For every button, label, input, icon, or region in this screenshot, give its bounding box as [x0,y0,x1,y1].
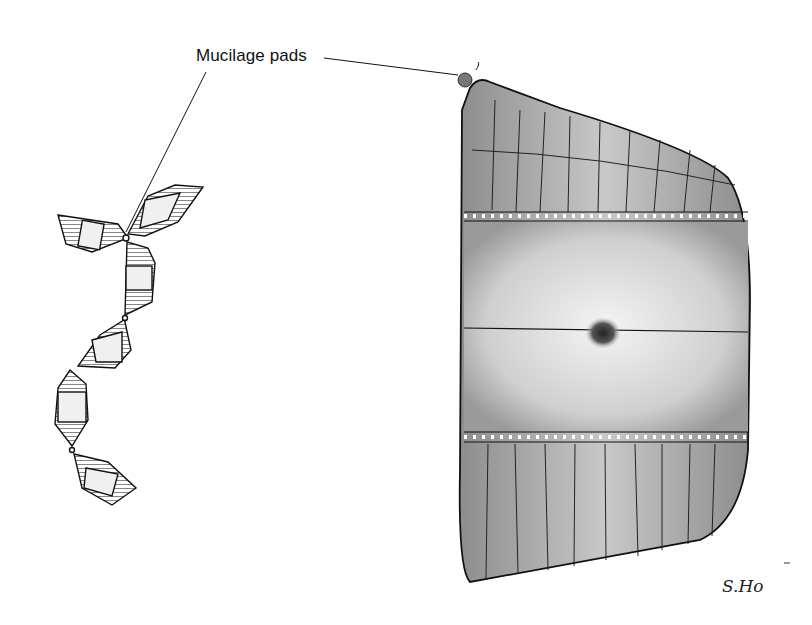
single-cell-frustule [458,62,750,582]
diatom-illustration: Mucilage pads S.Ho [0,0,812,625]
mucilage-pads-label: Mucilage pads [196,46,307,66]
artist-signature: S.Ho [722,576,764,596]
illustration-canvas [0,0,812,625]
zigzag-chain-colony [55,185,203,505]
